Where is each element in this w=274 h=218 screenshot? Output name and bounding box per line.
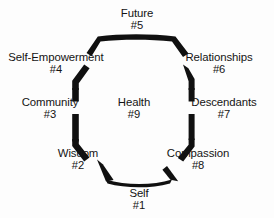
node-compassion-label: Compassion [167, 147, 229, 159]
node-relationships-number: #6 [185, 64, 252, 76]
node-future: Future #5 [121, 7, 153, 31]
node-community-number: #3 [22, 109, 79, 121]
node-community-label: Community [22, 96, 79, 108]
node-wisdom: Wisdom #2 [58, 147, 99, 171]
node-health-label: Health [118, 96, 150, 108]
node-self-empowerment: Self-Empowerment #4 [8, 51, 103, 75]
node-self: Self #1 [129, 187, 148, 211]
node-descendants-number: #7 [191, 109, 256, 121]
node-relationships: Relationships #6 [185, 51, 252, 75]
node-self-number: #1 [129, 200, 148, 212]
node-compassion: Compassion #8 [167, 147, 229, 171]
node-health-center: Health #9 [118, 96, 150, 120]
node-wisdom-number: #2 [58, 160, 99, 172]
node-wisdom-label: Wisdom [58, 147, 99, 159]
node-self-label: Self [129, 187, 148, 199]
circle-diagram: Future #5 Self-Empowerment #4 Relationsh… [0, 0, 274, 218]
node-future-label: Future [121, 7, 153, 19]
node-health-number: #9 [118, 109, 150, 121]
node-community: Community #3 [22, 96, 79, 120]
node-compassion-number: #8 [167, 160, 229, 172]
node-self-empowerment-label: Self-Empowerment [8, 51, 103, 63]
node-future-number: #5 [121, 20, 153, 32]
node-relationships-label: Relationships [185, 51, 252, 63]
node-descendants: Descendants #7 [191, 96, 256, 120]
node-self-empowerment-number: #4 [8, 64, 103, 76]
segment-bottom-left-tail [97, 160, 114, 182]
node-descendants-label: Descendants [191, 96, 256, 108]
